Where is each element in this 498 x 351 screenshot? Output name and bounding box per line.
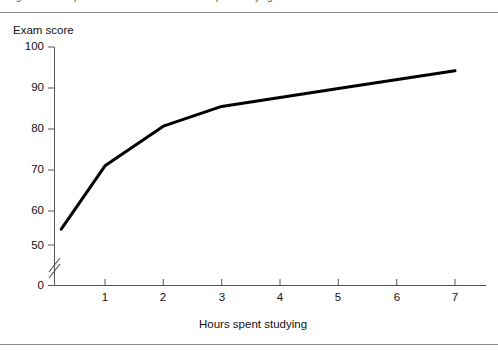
x-tick-marks [105, 279, 455, 286]
data-series-line [61, 71, 455, 229]
y-tick-marks [48, 47, 55, 286]
figure-container: Figure A scatterplot of exam score versu… [0, 0, 498, 351]
plot-area [0, 0, 498, 351]
